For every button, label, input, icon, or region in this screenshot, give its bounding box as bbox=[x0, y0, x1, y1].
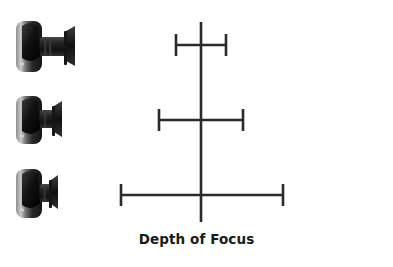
depth-of-focus-caption: Depth of Focus bbox=[0, 231, 393, 247]
depth-of-focus-diagram: Depth of Focus bbox=[0, 0, 393, 267]
aperture-column bbox=[300, 0, 393, 267]
aperture-icons-group bbox=[300, 0, 393, 267]
